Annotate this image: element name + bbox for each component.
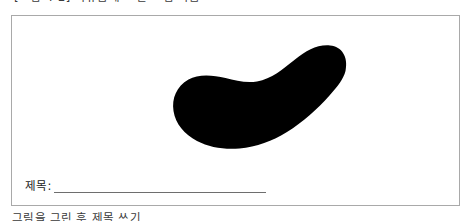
drawing-frame: 제목: [11, 15, 460, 206]
figure-caption-bottom: 그림을 그린 후 제목 쓰기 [12, 211, 312, 221]
title-field-label: 제목: [25, 179, 51, 195]
black-bean-blob-shape [162, 24, 362, 159]
title-field-row: 제목: [25, 179, 445, 195]
figure-caption-top: [그림 4-2] 자유롭게 그린 그림 작품 [14, 0, 314, 4]
drawing-canvas[interactable] [12, 16, 459, 205]
title-field-underline[interactable] [54, 192, 266, 193]
